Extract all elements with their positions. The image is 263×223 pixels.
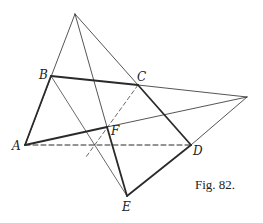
line-D-P [191,97,247,145]
line-F-P [107,97,247,127]
line-O-C [75,14,138,85]
line-C-P [138,85,247,97]
geometry-figure: A B C D E F Fig. 82. [0,0,263,223]
label-B: B [38,68,48,82]
label-D: D [192,144,203,158]
label-A: A [11,139,21,153]
line-O-F [75,14,107,127]
figure-caption: Fig. 82. [195,177,235,192]
label-C: C [137,70,146,84]
label-F: F [110,124,120,138]
edge-C-D [138,85,191,145]
label-E: E [121,200,131,214]
edge-D-E [127,145,191,196]
edge-A-B [25,76,51,145]
edge-F-A [25,127,107,145]
